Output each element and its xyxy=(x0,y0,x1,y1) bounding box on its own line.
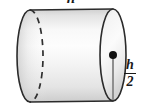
cylinder-figure: h h 2 xyxy=(0,0,147,108)
center-point-dot xyxy=(109,51,117,59)
cylinder-drawing xyxy=(0,0,147,108)
cylinder-bottom-ruling xyxy=(30,101,113,102)
cylinder-top-ruling xyxy=(30,9,113,10)
